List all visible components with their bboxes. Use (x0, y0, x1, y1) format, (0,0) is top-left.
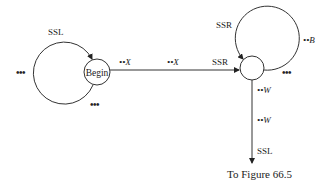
right-loop-arc (235, 6, 299, 70)
main-edge-label-start: ••X (119, 57, 131, 67)
right-node (240, 56, 264, 80)
left-bottom-ellipsis: ••• (90, 99, 100, 110)
down-edge-label-top: ••W (257, 85, 272, 95)
left-ellipsis: ••• (16, 67, 26, 78)
right-bottom-ellipsis: ••• (282, 67, 292, 78)
left-loop-label: SSL (48, 27, 64, 37)
down-edge-label-bottom: SSL (257, 146, 273, 156)
begin-node-label: Begin (86, 68, 109, 78)
down-edge-label-mid: ••W (257, 115, 272, 125)
right-loop-side-label: ••B (303, 35, 315, 45)
right-loop-label: SSR (216, 20, 232, 30)
target-caption: To Figure 66.5 (227, 168, 292, 180)
main-edge-label-mid: ••X (167, 57, 179, 67)
main-edge-label-end: SSR (212, 57, 228, 67)
state-diagram: Begin SSL ••• ••• ••X ••X SSR SSR ••B ••… (0, 0, 331, 192)
